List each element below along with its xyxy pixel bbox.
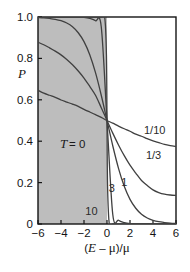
x-tick-label: 4 [150, 227, 157, 239]
region-annotation-t0: T = 0 [60, 136, 85, 151]
shaded-region-t0 [38, 17, 107, 224]
t0-symbol: T [60, 136, 68, 151]
t0-value: = 0 [69, 138, 85, 150]
curve-label-1: 1 [121, 176, 127, 188]
y-tick-label: 0.2 [17, 177, 33, 189]
fermi-dirac-plot: −6−4−2024600.20.40.60.81.0 1/101/31310 P… [0, 0, 190, 272]
y-axis-title: P [17, 66, 26, 81]
x-tick-label: −2 [77, 227, 90, 239]
curve-label-1-over-10: 1/10 [144, 124, 165, 136]
curve-label-3: 3 [109, 182, 115, 194]
x-tick-label: −6 [31, 227, 44, 239]
x-tick-label: 0 [104, 227, 110, 239]
y-tick-label: 0.4 [17, 135, 34, 147]
y-tick-label: 0.6 [17, 94, 33, 106]
x-tick-label: 6 [173, 227, 179, 239]
curve-label-1-over-3: 1/3 [146, 149, 161, 161]
curve-label-10: 10 [85, 205, 97, 217]
y-tick-label: 1.0 [17, 11, 33, 23]
x-tick-label: 2 [127, 227, 133, 239]
chart-figure: −6−4−2024600.20.40.60.81.0 1/101/31310 P… [0, 0, 190, 272]
y-tick-label: 0.8 [17, 52, 33, 64]
x-tick-label: −4 [54, 227, 68, 239]
x-axis-title: (E – μ)/μ [84, 240, 130, 255]
y-tick-label: 0 [27, 218, 33, 230]
